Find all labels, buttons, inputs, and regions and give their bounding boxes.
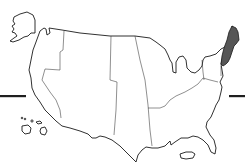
alaska-inset [10,12,35,42]
new-england-region [221,26,239,66]
map-svg [0,0,245,166]
contiguous-us-outline [29,26,236,162]
left-bar [0,95,26,97]
puerto-rico-inset [180,152,195,159]
hawaii-inset [21,117,47,135]
us-region-map [0,0,245,166]
right-bar [229,95,245,97]
